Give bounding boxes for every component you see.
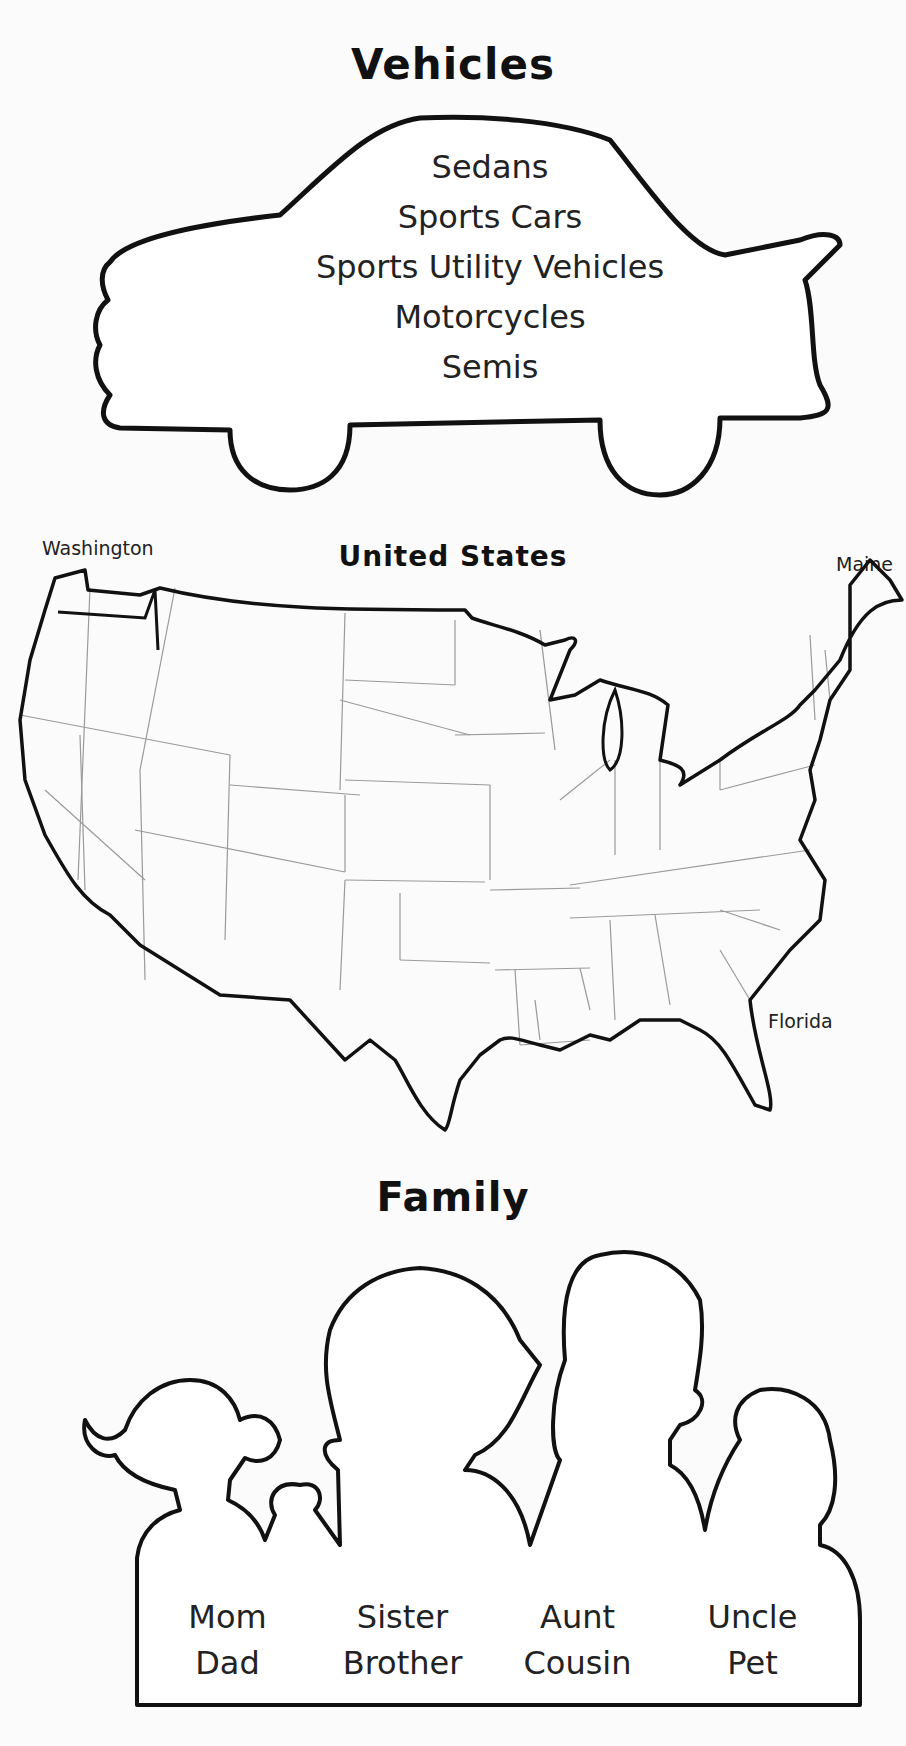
family-word: Dad [140, 1644, 315, 1682]
family-word: Uncle [665, 1598, 840, 1636]
family-word: Mom [140, 1598, 315, 1636]
family-word: Aunt [490, 1598, 665, 1636]
family-word: Sister [315, 1598, 490, 1636]
family-word: Pet [665, 1644, 840, 1682]
family-word: Brother [315, 1644, 490, 1682]
family-word: Cousin [490, 1644, 665, 1682]
family-words-table: Mom Sister Aunt Uncle Dad Brother Cousin… [140, 1598, 840, 1682]
family-silhouettes-icon [0, 0, 906, 1746]
